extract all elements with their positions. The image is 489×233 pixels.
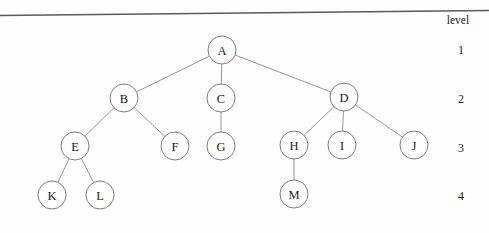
level-number-1: 1 — [458, 43, 464, 57]
tree-edge-b-e — [85, 108, 114, 136]
tree-node-d[interactable]: D — [330, 83, 358, 111]
node-label-b: B — [120, 92, 128, 106]
tree-node-a[interactable]: A — [208, 36, 236, 64]
node-label-e: E — [71, 140, 79, 154]
node-label-a: A — [217, 44, 226, 58]
tree-node-k[interactable]: K — [38, 181, 66, 209]
tree-node-b[interactable]: B — [110, 84, 138, 112]
tree-edge-d-h — [304, 107, 334, 136]
node-label-k: K — [47, 189, 56, 203]
scan-artifact-line — [0, 11, 489, 16]
tree-nodes: ABCDEFGHIJKLM — [38, 36, 428, 209]
tree-node-c[interactable]: C — [207, 84, 235, 112]
node-label-i: I — [340, 139, 344, 153]
tree-node-g[interactable]: G — [207, 132, 235, 160]
node-label-c: C — [217, 92, 225, 106]
level-axis: level1234 — [447, 14, 469, 203]
tree-node-i[interactable]: I — [328, 131, 356, 159]
tree-edge-e-k — [58, 159, 69, 183]
node-label-j: J — [412, 139, 417, 153]
node-label-h: H — [289, 139, 298, 153]
tree-edge-b-f — [134, 108, 165, 137]
node-label-m: M — [288, 188, 299, 202]
node-label-f: F — [172, 140, 179, 154]
tree-diagram-page: ABCDEFGHIJKLM level1234 — [0, 0, 489, 233]
node-label-l: L — [96, 189, 104, 203]
level-number-2: 2 — [458, 92, 464, 106]
tree-edge-a-d — [235, 55, 331, 92]
tree-node-e[interactable]: E — [61, 132, 89, 160]
tree-diagram-canvas: ABCDEFGHIJKLM level1234 — [0, 0, 489, 233]
tree-edge-e-l — [81, 158, 93, 182]
level-number-3: 3 — [458, 141, 464, 155]
node-label-g: G — [216, 140, 225, 154]
tree-edge-d-i — [343, 111, 344, 131]
level-number-4: 4 — [458, 189, 464, 203]
tree-node-l[interactable]: L — [86, 181, 114, 209]
tree-edge-a-b — [137, 56, 210, 92]
tree-node-h[interactable]: H — [280, 131, 308, 159]
level-axis-caption: level — [447, 14, 469, 26]
tree-node-f[interactable]: F — [161, 132, 189, 160]
tree-edges — [58, 55, 403, 183]
node-label-d: D — [339, 91, 348, 105]
tree-edge-d-j — [356, 105, 403, 137]
tree-node-m[interactable]: M — [280, 180, 308, 208]
tree-node-j[interactable]: J — [400, 131, 428, 159]
scan-artifact-line — [0, 11, 489, 16]
